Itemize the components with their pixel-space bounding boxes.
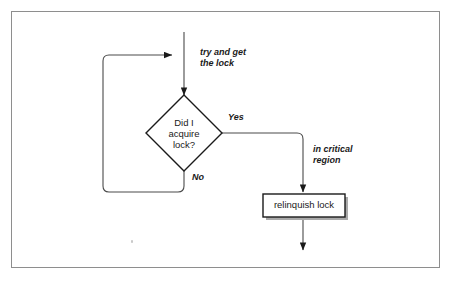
edge-label-yes: Yes [228,112,244,123]
flowchart-canvas [0,0,453,282]
edge-label-in-critical-region: in critical region [313,144,353,166]
edge-label-try-and-get-the-lock: try and get the lock [200,47,246,69]
edge-yes-branch [222,133,303,192]
scan-artifact-speck [131,240,133,243]
decision-node-label: Did I acquire lock? [154,117,214,150]
flowchart-figure: try and get the lock Yes No in critical … [0,0,453,282]
process-node-label: relinquish lock [263,199,345,210]
edge-label-no: No [192,172,204,183]
